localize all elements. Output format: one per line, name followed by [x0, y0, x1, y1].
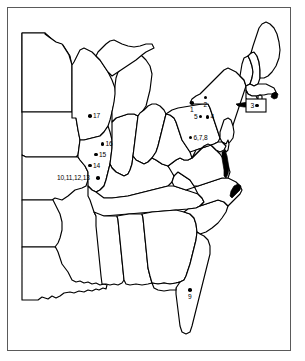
figure-root: 1 2 3 4 5 6,7,8 9 10,11,12,13 [0, 0, 305, 361]
site-dot-5 [199, 115, 203, 119]
site-label-14: 14 [93, 162, 100, 169]
site-dot-16 [101, 142, 105, 146]
site-label-2: 2 [204, 101, 208, 108]
site-dot-6-7-8 [189, 136, 193, 140]
site-label-6-7-8: 6,7,8 [194, 134, 208, 141]
site-dot-9 [188, 288, 192, 292]
site-label-4: 4 [211, 113, 215, 120]
site-label-15: 15 [99, 151, 106, 158]
site-dot-15 [94, 153, 98, 157]
site-label-10-11-12-13: 10,11,12,13 [57, 174, 90, 181]
site-dot-10-11-12-13 [96, 176, 100, 180]
site-dot-14 [88, 164, 92, 168]
site-dot-2 [204, 96, 208, 100]
site-marker-layer: 1 2 3 4 5 6,7,8 9 10,11,12,13 [0, 0, 305, 361]
site-label-3: 3 [250, 102, 254, 109]
site-label-9: 9 [188, 293, 192, 300]
site-dot-17 [88, 114, 92, 118]
site-label-5: 5 [194, 113, 198, 120]
site-dot-3 [255, 104, 259, 108]
site-dot-4 [206, 115, 210, 119]
site-label-16: 16 [106, 140, 113, 147]
site-dot-1 [190, 101, 194, 105]
site-label-17: 17 [93, 112, 100, 119]
